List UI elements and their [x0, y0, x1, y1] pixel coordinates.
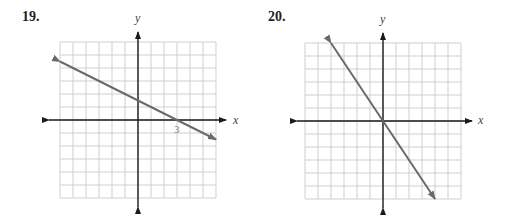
x-axis-label-20: x: [477, 113, 484, 127]
graph-20: x y: [297, 12, 484, 208]
y-axis-label-20: y: [379, 12, 386, 26]
graphs-canvas: x y 3 x y: [0, 0, 505, 222]
x-axis-label-19: x: [232, 113, 239, 127]
x-tick-label-3: 3: [174, 123, 180, 135]
y-axis-label-19: y: [134, 11, 141, 25]
graph-19: x y 3: [49, 11, 239, 207]
